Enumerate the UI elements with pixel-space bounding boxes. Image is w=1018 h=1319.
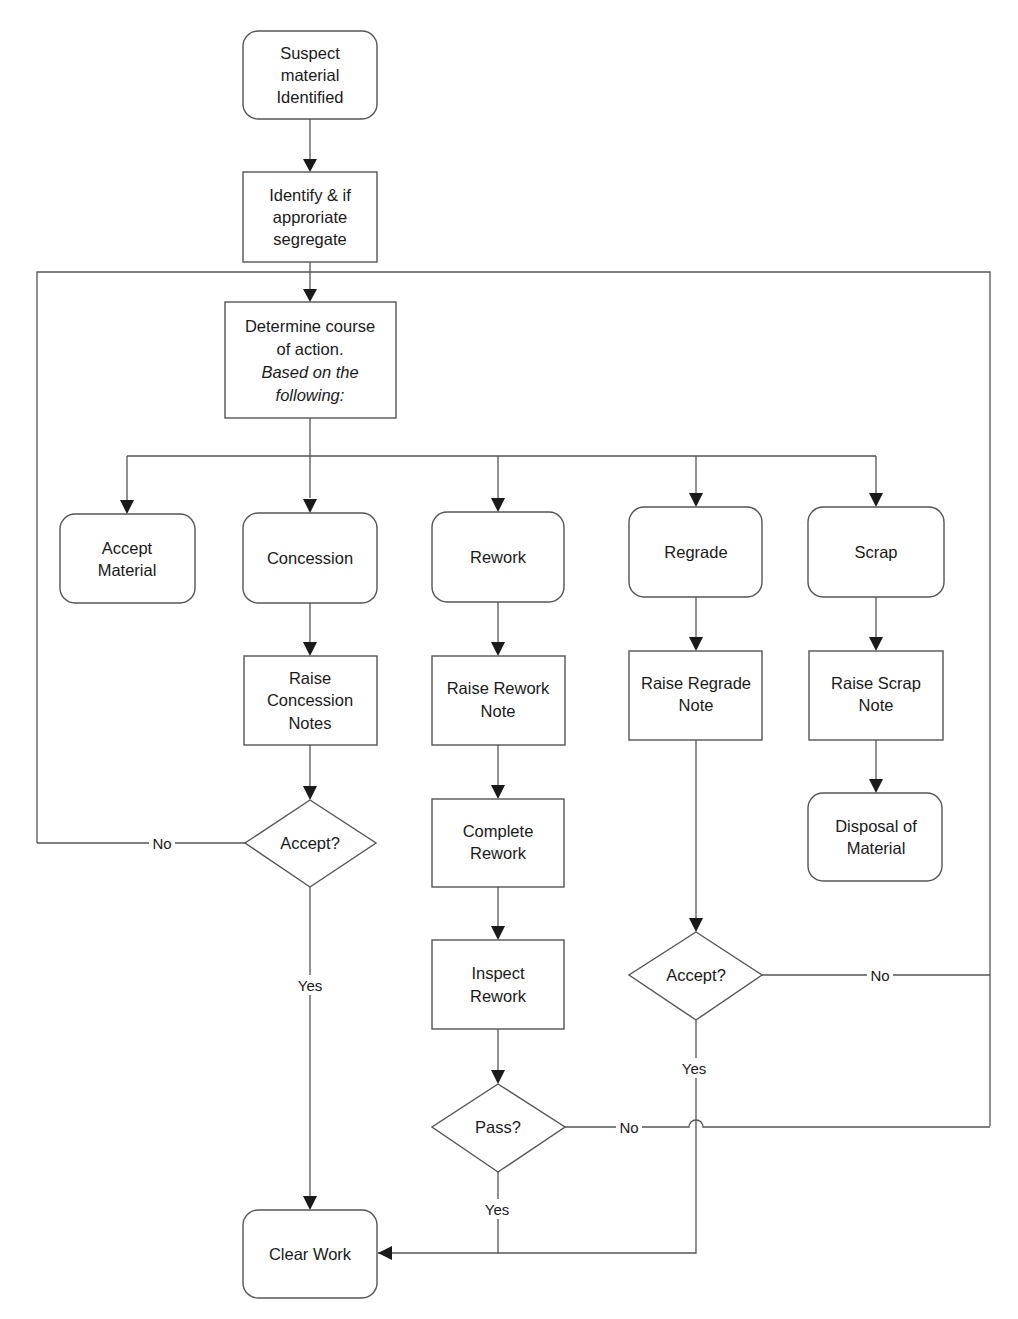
arrow-down-icon — [689, 918, 703, 932]
edge-label-no: No — [152, 835, 171, 852]
arrow-down-icon — [303, 786, 317, 800]
flowchart-canvas: Suspect material Identified Identify & i… — [0, 0, 1018, 1319]
arrow-left-icon — [378, 1246, 392, 1260]
arrow-down-icon — [869, 493, 883, 507]
arrow-down-icon — [303, 1196, 317, 1210]
arrow-down-icon — [303, 642, 317, 656]
node-raise-concession-notes[interactable]: Raise Concession Notes — [244, 656, 377, 745]
node-label: approriate — [273, 208, 347, 226]
decision-pass[interactable]: Pass? — [432, 1084, 565, 1172]
edge-label-yes: Yes — [485, 1201, 509, 1218]
arrow-down-icon — [869, 637, 883, 651]
arrow-down-icon — [303, 499, 317, 513]
node-complete-rework[interactable]: Complete Rework — [432, 799, 564, 887]
node-clear-work[interactable]: Clear Work — [243, 1210, 377, 1298]
node-label: Disposal of — [835, 817, 917, 835]
node-label: Inspect — [471, 964, 525, 982]
node-label: segregate — [273, 230, 346, 248]
decision-regrade-accept[interactable]: Accept? — [629, 932, 762, 1020]
decision-concession-accept[interactable]: Accept? — [245, 800, 376, 887]
node-label: Rework — [470, 548, 527, 566]
edge-label-yes: Yes — [298, 977, 322, 994]
node-label-italic: following: — [276, 386, 345, 404]
node-label: Notes — [288, 714, 331, 732]
node-label: Rework — [470, 987, 527, 1005]
node-label: Identified — [277, 88, 344, 106]
arrow-down-icon — [491, 642, 505, 656]
node-label: Material — [98, 561, 157, 579]
arrow-down-icon — [491, 1070, 505, 1084]
edge-pass-yes — [378, 1172, 498, 1253]
node-rework[interactable]: Rework — [432, 512, 564, 602]
node-label: Regrade — [664, 543, 727, 561]
edge-label-no: No — [870, 967, 889, 984]
arrow-down-icon — [491, 785, 505, 799]
node-inspect-rework[interactable]: Inspect Rework — [432, 940, 564, 1029]
node-raise-rework-note[interactable]: Raise Rework Note — [432, 656, 565, 745]
node-label: Accept — [102, 539, 153, 557]
node-label: Determine course — [245, 317, 375, 335]
node-scrap[interactable]: Scrap — [808, 507, 944, 597]
decision-label: Pass? — [475, 1118, 521, 1136]
node-label: Material — [847, 839, 906, 857]
node-label: Complete — [463, 822, 534, 840]
node-label: material — [281, 66, 340, 84]
arrow-down-icon — [491, 498, 505, 512]
arrow-down-icon — [303, 289, 317, 302]
node-identify-segregate[interactable]: Identify & if approriate segregate — [243, 172, 377, 262]
node-label: Scrap — [854, 543, 897, 561]
arrow-down-icon — [303, 159, 317, 172]
edge-label-yes: Yes — [682, 1060, 706, 1077]
node-label: of action. — [277, 340, 344, 358]
node-regrade[interactable]: Regrade — [629, 507, 762, 597]
node-label: Clear Work — [269, 1245, 352, 1263]
node-label: Concession — [267, 691, 353, 709]
node-label: Note — [481, 702, 516, 720]
node-concession[interactable]: Concession — [243, 513, 377, 603]
node-disposal-of-material[interactable]: Disposal of Material — [808, 793, 942, 881]
node-raise-scrap-note[interactable]: Raise Scrap Note — [809, 651, 943, 740]
node-determine-course-of-action[interactable]: Determine course of action. Based on the… — [225, 302, 396, 418]
arrow-down-icon — [491, 926, 505, 940]
node-label: Rework — [470, 844, 527, 862]
node-label: Raise — [289, 669, 331, 687]
arrow-down-icon — [120, 500, 134, 514]
edge-label-no: No — [619, 1119, 638, 1136]
arrow-down-icon — [689, 637, 703, 651]
node-label: Note — [859, 696, 894, 714]
node-label: Raise Regrade — [641, 674, 751, 692]
node-label: Raise Rework — [447, 679, 550, 697]
decision-label: Accept? — [280, 834, 340, 852]
node-label: Raise Scrap — [831, 674, 921, 692]
node-label: Suspect — [280, 44, 340, 62]
decision-label: Accept? — [666, 966, 726, 984]
node-accept-material[interactable]: Accept Material — [60, 514, 195, 603]
node-label: Identify & if — [269, 186, 351, 204]
node-label: Concession — [267, 549, 353, 567]
arrow-down-icon — [869, 779, 883, 793]
node-raise-regrade-note[interactable]: Raise Regrade Note — [629, 651, 762, 740]
node-label-italic: Based on the — [261, 363, 358, 381]
arrow-down-icon — [689, 493, 703, 507]
node-suspect-material-identified[interactable]: Suspect material Identified — [243, 31, 377, 119]
node-label: Note — [679, 696, 714, 714]
